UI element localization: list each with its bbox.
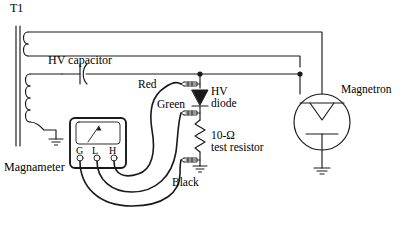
- hv-diode-symbol: [192, 90, 208, 106]
- label-transformer: T1: [10, 2, 23, 15]
- hv-capacitor-symbol: [62, 64, 200, 84]
- label-wire-red: Red: [138, 78, 157, 90]
- circuit-schematic-svg: [0, 0, 404, 230]
- label-magnetron: Magnetron: [341, 83, 391, 95]
- label-wire-green: Green: [157, 98, 185, 110]
- clip-icon-top: [181, 82, 200, 86]
- label-hv-diode: HV diode: [211, 85, 237, 110]
- circuit-diagram: T1 HV capacitor Red Green Black HV diode…: [0, 0, 404, 230]
- label-hv-diode-line1: HV: [211, 85, 237, 97]
- hv-secondary-winding: [26, 74, 31, 122]
- label-test-resistor-line1: 10-Ω: [211, 129, 264, 141]
- test-resistor-symbol: [195, 120, 205, 152]
- test-string: [192, 74, 208, 172]
- meter-terminal-label-l: L: [92, 145, 98, 156]
- label-test-resistor-line2: test resistor: [211, 141, 264, 153]
- label-hv-capacitor: HV capacitor: [48, 54, 112, 67]
- transformer-core: [16, 26, 20, 146]
- label-hv-diode-line2: diode: [211, 97, 237, 109]
- meter-face: [76, 122, 120, 144]
- test-string-ground-symbol: [193, 166, 207, 172]
- clip-icon-middle: [181, 111, 200, 115]
- label-magnameter: Magnameter: [4, 161, 65, 174]
- clip-icon-bottom: [181, 158, 200, 162]
- label-test-resistor: 10-Ω test resistor: [211, 129, 264, 154]
- filament-winding: [24, 32, 29, 56]
- hv-secondary-ground-lead: [30, 122, 56, 139]
- meter-terminal-label-h: H: [109, 145, 116, 156]
- magnameter-body: [70, 118, 126, 168]
- meter-terminal-label-g: G: [76, 145, 83, 156]
- transformer-ground-symbol: [49, 139, 63, 145]
- magnetron-symbol: [294, 94, 350, 174]
- label-wire-black: Black: [172, 176, 199, 188]
